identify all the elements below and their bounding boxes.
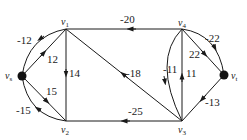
weight-v4-v3: -11 [163,63,177,75]
node-label-v4: v4 [178,17,186,30]
weight-vs-v1: 12 [47,53,58,65]
edge-v3-v1 [66,29,182,121]
graph-diagram: vs v1 v2 v3 v4 vt -12 12 14 15 -15 -20 -… [0,0,247,140]
node-label-v2: v2 [61,124,69,137]
weight-v4-vt: 22 [189,48,200,60]
node-label-vt: vt [231,70,237,83]
node-label-v3: v3 [178,124,186,137]
node-vs [18,72,27,81]
weight-v1-vs: -12 [17,34,32,46]
weight-v3-v2: -25 [128,105,143,117]
weight-vt-v3: -13 [205,96,220,108]
node-label-vs: vs [5,70,12,83]
weight-v2-vs: -15 [16,104,31,116]
edge-v4-v3 [164,29,182,121]
weight-v3-v1: -18 [126,67,141,79]
weight-vt-v4: -22 [205,32,220,44]
weight-v4-v1: -20 [120,13,135,25]
node-vt [220,71,229,80]
node-label-v1: v1 [61,16,69,29]
weight-vs-v2: 15 [46,85,58,97]
weight-v1-v2: 14 [69,67,81,79]
weight-v3-v4: 11 [186,67,197,79]
